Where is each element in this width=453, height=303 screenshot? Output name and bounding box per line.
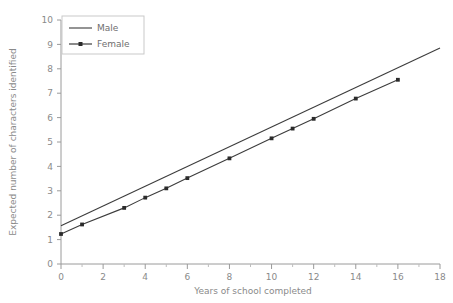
x-axis-tick-label: 6 — [184, 272, 190, 282]
legend-label-male[interactable]: Male — [97, 23, 119, 33]
x-axis-tick-label: 18 — [434, 272, 446, 282]
data-point-female — [354, 97, 358, 101]
x-axis-title: Years of school completed — [193, 286, 312, 296]
x-axis-tick-label: 16 — [392, 272, 404, 282]
legend-marker-female — [79, 42, 83, 46]
y-axis-tick-label: 5 — [47, 137, 53, 147]
y-axis-tick-label: 1 — [47, 235, 53, 245]
x-axis-tick-label: 12 — [308, 272, 319, 282]
legend-label-female[interactable]: Female — [97, 39, 130, 49]
x-axis-tick-label: 8 — [227, 272, 233, 282]
line-chart: 012345678910 024681012141618 MaleFemale … — [0, 0, 453, 303]
data-point-female — [143, 196, 147, 200]
y-axis-tick-label: 4 — [47, 162, 53, 172]
data-point-female — [312, 117, 316, 121]
y-axis-tick-label: 3 — [47, 186, 53, 196]
x-axis-tick-label: 4 — [142, 272, 148, 282]
data-point-female — [59, 232, 63, 236]
x-axis-tick-label: 10 — [266, 272, 278, 282]
x-axis-tick-label: 0 — [58, 272, 64, 282]
data-point-female — [185, 176, 189, 180]
data-point-female — [270, 136, 274, 140]
data-point-female — [396, 78, 400, 82]
data-point-female — [291, 127, 295, 131]
y-axis-tick-label: 6 — [47, 113, 53, 123]
y-axis-title: Expected number of characters identified — [8, 48, 18, 235]
data-point-female — [164, 186, 168, 190]
data-point-female — [80, 223, 84, 227]
y-axis-tick-label: 9 — [47, 40, 53, 50]
x-axis-tick-label: 14 — [350, 272, 362, 282]
y-axis-tick-label: 10 — [42, 15, 54, 25]
data-point-female — [122, 206, 126, 210]
x-axis-tick-label: 2 — [100, 272, 106, 282]
chart-container: 012345678910 024681012141618 MaleFemale … — [0, 0, 453, 303]
y-axis-tick-label: 8 — [47, 64, 53, 74]
y-axis-tick-label: 0 — [47, 259, 53, 269]
y-axis-tick-label: 7 — [47, 88, 53, 98]
data-point-female — [228, 156, 232, 160]
chart-legend[interactable]: MaleFemale — [62, 16, 144, 54]
y-axis-tick-label: 2 — [47, 210, 53, 220]
